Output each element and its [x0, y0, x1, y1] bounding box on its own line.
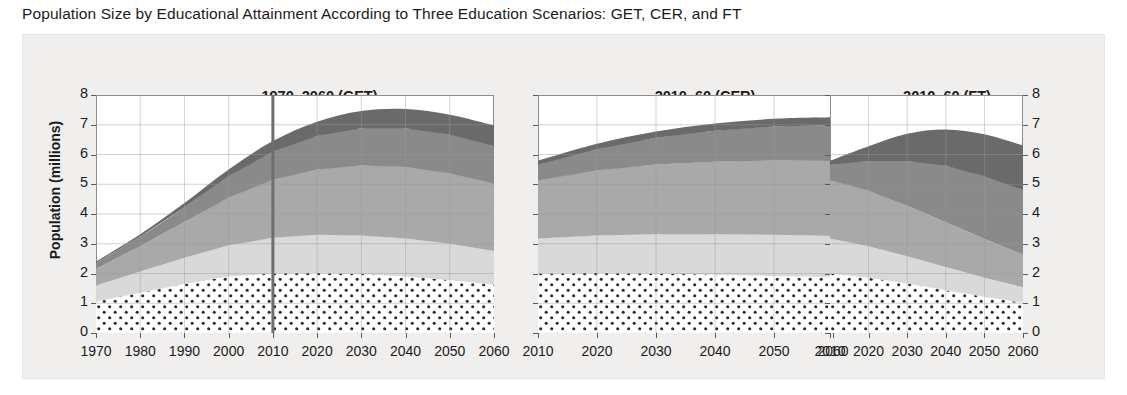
- y-tick-mark: [825, 125, 830, 126]
- y-tick-mark: [91, 155, 96, 156]
- x-tick-mark: [946, 333, 947, 338]
- x-tick-mark: [774, 333, 775, 338]
- y-tick-mark: [1023, 184, 1028, 185]
- y-tick-mark: [533, 155, 538, 156]
- x-tick-label: 2020: [853, 343, 884, 359]
- y-tick-mark: [91, 125, 96, 126]
- y-tick-mark: [825, 155, 830, 156]
- y-tick-label-left: 8: [66, 85, 88, 101]
- y-tick-label-left: 6: [66, 145, 88, 161]
- x-tick-label: 2030: [640, 343, 671, 359]
- x-tick-mark: [450, 333, 451, 338]
- x-tick-label: 2020: [581, 343, 612, 359]
- x-tick-mark: [96, 333, 97, 338]
- y-tick-mark: [533, 244, 538, 245]
- y-tick-mark: [533, 184, 538, 185]
- x-tick-label: 2040: [699, 343, 730, 359]
- x-tick-mark: [538, 333, 539, 338]
- y-tick-mark: [533, 333, 538, 334]
- x-tick-label: 1990: [169, 343, 200, 359]
- x-tick-label: 2050: [969, 343, 1000, 359]
- y-axis-label: Population (millions): [47, 90, 63, 290]
- y-tick-mark: [1023, 303, 1028, 304]
- x-tick-label: 2020: [302, 343, 333, 359]
- x-tick-mark: [184, 333, 185, 338]
- y-tick-label-right: 5: [1032, 174, 1054, 190]
- y-tick-label-left: 3: [66, 234, 88, 250]
- x-tick-label: 2030: [892, 343, 923, 359]
- figure-root: Population Size by Educational Attainmen…: [0, 0, 1127, 395]
- y-tick-mark: [533, 214, 538, 215]
- figure-title: Population Size by Educational Attainmen…: [22, 5, 741, 23]
- y-tick-mark: [533, 274, 538, 275]
- x-tick-mark: [229, 333, 230, 338]
- x-tick-mark: [273, 333, 274, 338]
- y-tick-mark: [825, 303, 830, 304]
- x-tick-label: 2040: [930, 343, 961, 359]
- x-tick-label: 2010: [814, 343, 845, 359]
- y-tick-label-left: 2: [66, 264, 88, 280]
- x-tick-mark: [317, 333, 318, 338]
- y-tick-label-left: 1: [66, 293, 88, 309]
- y-tick-label-right: 1: [1032, 293, 1054, 309]
- y-tick-mark: [533, 303, 538, 304]
- y-tick-mark: [91, 214, 96, 215]
- y-tick-mark: [91, 244, 96, 245]
- x-tick-mark: [406, 333, 407, 338]
- x-tick-label: 2050: [758, 343, 789, 359]
- y-tick-mark: [1023, 274, 1028, 275]
- x-tick-mark: [984, 333, 985, 338]
- y-tick-mark: [91, 333, 96, 334]
- y-tick-mark: [91, 95, 96, 96]
- y-tick-mark: [825, 274, 830, 275]
- x-tick-label: 2000: [213, 343, 244, 359]
- y-tick-mark: [825, 95, 830, 96]
- x-tick-label: 2040: [390, 343, 421, 359]
- chart-panel-get[interactable]: [96, 95, 494, 333]
- y-tick-label-left: 0: [66, 323, 88, 339]
- x-tick-mark: [830, 333, 831, 338]
- y-tick-label-right: 2: [1032, 264, 1054, 280]
- x-tick-mark: [715, 333, 716, 338]
- y-tick-mark: [1023, 155, 1028, 156]
- x-tick-mark: [361, 333, 362, 338]
- y-tick-label-left: 7: [66, 115, 88, 131]
- x-tick-label: 2030: [346, 343, 377, 359]
- y-tick-mark: [1023, 333, 1028, 334]
- x-tick-mark: [869, 333, 870, 338]
- x-tick-mark: [833, 333, 834, 338]
- y-tick-label-right: 7: [1032, 115, 1054, 131]
- chart-panel-ft[interactable]: [830, 95, 1023, 333]
- y-tick-mark: [91, 184, 96, 185]
- x-tick-label: 2010: [522, 343, 553, 359]
- x-tick-mark: [597, 333, 598, 338]
- y-tick-label-right: 4: [1032, 204, 1054, 220]
- x-tick-label: 1980: [125, 343, 156, 359]
- y-tick-mark: [825, 214, 830, 215]
- y-tick-mark: [91, 303, 96, 304]
- figure-plate: Population (millions) 1970–2060 (GET) 20…: [22, 34, 1105, 379]
- y-tick-mark: [1023, 214, 1028, 215]
- y-tick-mark: [1023, 125, 1028, 126]
- x-tick-mark: [907, 333, 908, 338]
- chart-panel-cer[interactable]: [538, 95, 833, 333]
- x-tick-mark: [656, 333, 657, 338]
- y-tick-mark: [825, 333, 830, 334]
- y-tick-label-right: 0: [1032, 323, 1054, 339]
- area-band-primary: [538, 234, 833, 277]
- x-tick-mark: [140, 333, 141, 338]
- x-tick-label: 2060: [478, 343, 509, 359]
- x-tick-label: 2010: [257, 343, 288, 359]
- y-tick-mark: [825, 184, 830, 185]
- y-tick-mark: [1023, 244, 1028, 245]
- y-tick-label-right: 3: [1032, 234, 1054, 250]
- y-tick-label-right: 6: [1032, 145, 1054, 161]
- y-tick-mark: [533, 125, 538, 126]
- y-tick-label-left: 4: [66, 204, 88, 220]
- x-tick-label: 2050: [434, 343, 465, 359]
- x-tick-label: 1970: [80, 343, 111, 359]
- y-tick-label-left: 5: [66, 174, 88, 190]
- y-tick-mark: [91, 274, 96, 275]
- x-tick-mark: [494, 333, 495, 338]
- y-tick-label-right: 8: [1032, 85, 1054, 101]
